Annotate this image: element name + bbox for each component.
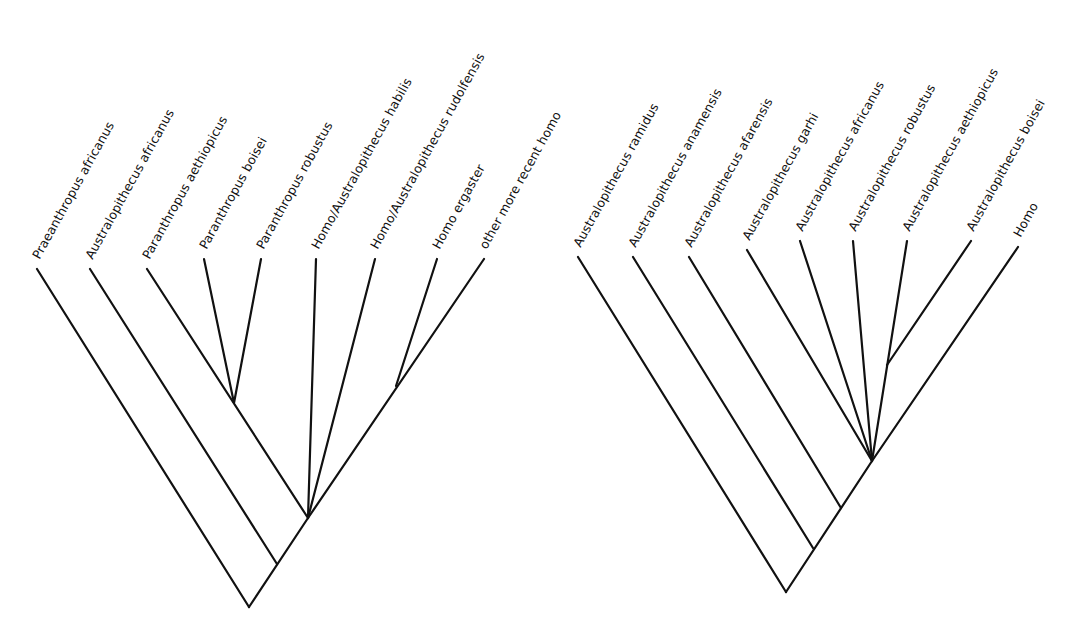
right-cladogram: Australopithecus ramidusAustralopithecus… [570,66,1048,592]
branch-line [747,250,872,461]
branch-line [308,259,484,518]
left-branches [37,259,484,607]
branch-line [234,259,261,403]
branch-line [853,241,872,461]
branch-line [887,241,971,365]
cladogram-figure: Praeanthropus africanusAustralopithecus … [0,0,1075,627]
taxon-label: Homo/Australopithecus rudolfensis [367,50,488,251]
left-labels: Praeanthropus africanusAustralopithecus … [29,50,564,261]
branch-line [800,241,872,461]
branch-line [578,257,786,592]
right-labels: Australopithecus ramidusAustralopithecus… [570,66,1048,250]
right-branches [578,241,1018,592]
branch-line [308,259,316,518]
taxon-label: Homo [1010,200,1041,240]
branch-line [147,269,308,518]
left-cladogram: Praeanthropus africanusAustralopithecus … [29,50,564,607]
branch-line [90,269,277,564]
branch-line [396,259,437,386]
branch-line [872,241,907,461]
branch-line [308,259,375,518]
taxon-label: other more recent homo [476,109,564,252]
taxon-label: Australopithecus africanus [792,78,887,233]
taxon-label: Homo/Australopithecus habilis [308,75,415,251]
branch-line [633,257,813,548]
cladogram-canvas: Praeanthropus africanusAustralopithecus … [0,0,1075,627]
taxon-label: Australopithecus anamensis [625,86,725,250]
branch-line [249,518,308,607]
